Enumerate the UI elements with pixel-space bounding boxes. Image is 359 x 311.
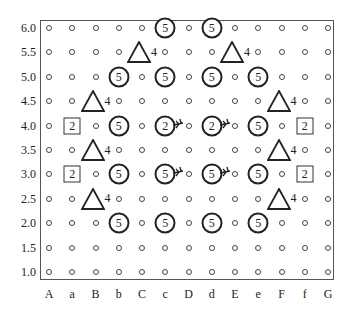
grid-point-icon (69, 196, 75, 202)
marker-label: 2 (209, 118, 215, 133)
x-label: F (278, 287, 285, 302)
y-label: 3.5 (4, 143, 36, 158)
marker-label: 5 (209, 21, 215, 36)
grid-point-icon (186, 196, 192, 202)
grid-point-icon (46, 74, 52, 80)
x-label: c (163, 287, 168, 302)
marker-label: 4 (105, 143, 111, 158)
grid-point-icon (93, 220, 99, 226)
marker-label: 5 (255, 69, 261, 84)
grid-point-icon (162, 269, 168, 275)
grid-point-icon (162, 49, 168, 55)
grid-point-icon (93, 74, 99, 80)
square-marker: 2 (64, 166, 81, 183)
triangle-marker: 4 (81, 139, 111, 161)
marker-label: 4 (105, 191, 111, 206)
grid-point-icon (186, 171, 192, 177)
grid-point-icon (232, 25, 238, 31)
grid-point-icon (116, 98, 122, 104)
marker-label: 5 (162, 69, 168, 84)
grid-point-icon (209, 245, 215, 251)
circle-marker: 5 (108, 66, 129, 87)
circle-marker: 5 (201, 66, 222, 87)
grid-point-icon (279, 123, 285, 129)
marker-label: 4 (291, 191, 297, 206)
circle-marker: 5 (155, 18, 176, 39)
triangle-icon (267, 90, 291, 112)
marker-label: 2 (69, 167, 75, 182)
grid-point-icon (232, 196, 238, 202)
grid-point-icon (302, 147, 308, 153)
arrow-icon (172, 116, 184, 134)
grid-point-icon (139, 123, 145, 129)
grid-point-icon (46, 25, 52, 31)
x-label: C (138, 287, 146, 302)
grid-point-icon (255, 196, 261, 202)
grid-point-icon (232, 98, 238, 104)
circle-marker: 5 (108, 164, 129, 185)
triangle-marker: 4 (267, 90, 297, 112)
grid-point-icon (279, 25, 285, 31)
grid-point-icon (302, 269, 308, 275)
grid-point-icon (325, 123, 331, 129)
marker-label: 5 (162, 21, 168, 36)
grid-point-icon (325, 147, 331, 153)
grid-point-icon (325, 269, 331, 275)
marker-label: 4 (151, 45, 157, 60)
grid-point-icon (139, 196, 145, 202)
circle-marker: 5 (201, 18, 222, 39)
x-label: E (231, 287, 238, 302)
grid-point-icon (186, 220, 192, 226)
grid-point-icon (46, 147, 52, 153)
x-label: D (184, 287, 193, 302)
triangle-icon (267, 139, 291, 161)
grid-point-icon (116, 269, 122, 275)
marker-label: 4 (244, 45, 250, 60)
x-label: G (324, 287, 333, 302)
grid-point-icon (302, 74, 308, 80)
y-label: 4.0 (4, 118, 36, 133)
grid-point-icon (255, 269, 261, 275)
grid-point-icon (93, 171, 99, 177)
grid-point-icon (255, 25, 261, 31)
grid-point-icon (232, 245, 238, 251)
grid-point-icon (139, 98, 145, 104)
y-label: 3.0 (4, 167, 36, 182)
grid-point-icon (209, 98, 215, 104)
triangle-marker: 4 (81, 188, 111, 210)
grid-point-icon (46, 171, 52, 177)
marker-label: 2 (302, 167, 308, 182)
grid-point-icon (186, 49, 192, 55)
grid-point-icon (139, 220, 145, 226)
y-label: 5.0 (4, 69, 36, 84)
circle-marker: 5 (108, 115, 129, 136)
grid-point-icon (209, 269, 215, 275)
grid-point-icon (186, 98, 192, 104)
grid-point-icon (279, 49, 285, 55)
marker-label: 5 (209, 216, 215, 231)
marker-label: 4 (105, 94, 111, 109)
grid-point-icon (46, 269, 52, 275)
y-label: 1.5 (4, 240, 36, 255)
grid-point-icon (302, 220, 308, 226)
triangle-icon (81, 90, 105, 112)
grid-point-icon (209, 147, 215, 153)
arrow-icon (219, 116, 231, 134)
square-marker: 2 (296, 117, 313, 134)
triangle-marker: 4 (220, 41, 250, 63)
grid-point-icon (116, 147, 122, 153)
grid-point-icon (162, 245, 168, 251)
marker-label: 4 (291, 94, 297, 109)
grid-point-icon (69, 49, 75, 55)
grid-point-icon (186, 269, 192, 275)
circle-marker: 5 (248, 164, 269, 185)
grid-point-icon (279, 171, 285, 177)
marker-label: 5 (116, 118, 122, 133)
grid-point-icon (302, 49, 308, 55)
marker-label: 5 (162, 167, 168, 182)
triangle-icon (220, 41, 244, 63)
marker-label: 5 (255, 118, 261, 133)
y-label: 6.0 (4, 21, 36, 36)
grid-point-icon (69, 147, 75, 153)
x-label: f (303, 287, 307, 302)
